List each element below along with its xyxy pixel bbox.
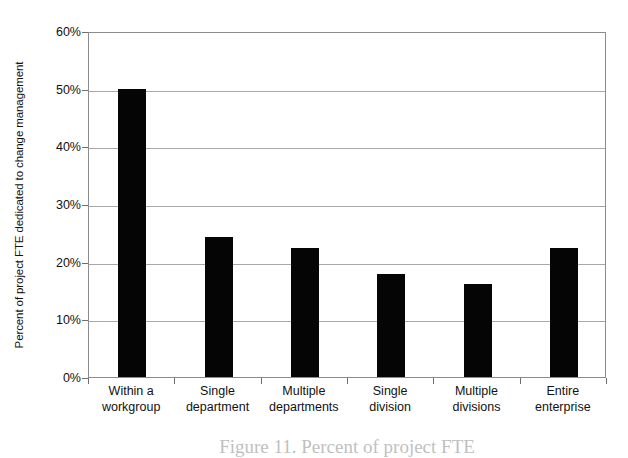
x-axis-category-label-line: enterprise xyxy=(514,400,612,416)
y-axis-tick-label: 0% xyxy=(37,372,81,384)
y-axis-tick-label: 20% xyxy=(37,257,81,269)
x-axis-category-label: Entireenterprise xyxy=(514,384,612,415)
bar xyxy=(464,284,492,377)
y-axis-tick-label: 10% xyxy=(37,314,81,326)
x-axis-category-label-line: Single xyxy=(168,384,266,400)
gridline xyxy=(89,206,605,207)
y-axis-tick-label: 60% xyxy=(37,26,81,38)
x-axis-category-label: Singledepartment xyxy=(168,384,266,415)
bar xyxy=(205,237,233,377)
y-axis-tick-label: 50% xyxy=(37,84,81,96)
x-axis-category-label: Singledivision xyxy=(341,384,439,415)
bar xyxy=(550,248,578,377)
gridline xyxy=(89,264,605,265)
x-axis-category-label-line: department xyxy=(168,400,266,416)
bar xyxy=(118,89,146,377)
figure-caption: Figure 11. Percent of project FTE xyxy=(88,436,606,458)
x-axis-category-label-line: workgroup xyxy=(82,400,180,416)
x-axis-category-label-line: Multiple xyxy=(427,384,525,400)
gridline xyxy=(89,321,605,322)
x-axis-category-label: Multipledepartments xyxy=(255,384,353,415)
x-axis-category-label-line: departments xyxy=(255,400,353,416)
bar xyxy=(291,248,319,377)
x-axis-category-label-line: Within a xyxy=(82,384,180,400)
bar xyxy=(377,274,405,377)
x-axis-category-label: Multipledivisions xyxy=(427,384,525,415)
plot-area xyxy=(88,32,606,378)
x-axis-category-label: Within aworkgroup xyxy=(82,384,180,415)
gridline xyxy=(89,148,605,149)
x-axis-category-label-line: divisions xyxy=(427,400,525,416)
y-axis-tick-labels: 0%10%20%30%40%50%60% xyxy=(33,0,81,451)
y-axis-tick-label: 30% xyxy=(37,199,81,211)
x-axis-category-label-line: Entire xyxy=(514,384,612,400)
x-axis-category-label-line: division xyxy=(341,400,439,416)
y-axis-tick-label: 40% xyxy=(37,141,81,153)
gridline xyxy=(89,91,605,92)
y-axis-title: Percent of project FTE dedicated to chan… xyxy=(10,32,28,378)
x-axis-category-labels: Within aworkgroupSingledepartmentMultipl… xyxy=(88,384,606,424)
x-axis-category-label-line: Multiple xyxy=(255,384,353,400)
x-axis-category-label-line: Single xyxy=(341,384,439,400)
